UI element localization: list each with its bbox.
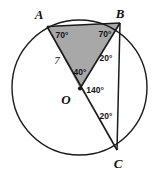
point-label-O: O [61, 92, 71, 107]
point-label-C: C [114, 156, 123, 171]
point-label-B: B [115, 6, 125, 21]
angle-label-at-C: 20° [100, 111, 113, 121]
point-label-A: A [34, 7, 44, 22]
geometry-figure: A B C O 7 70° 70° 20° 40° 140° 20° [0, 0, 158, 173]
angle-label-AOB: 40° [74, 67, 87, 77]
angle-label-at-A: 70° [56, 30, 69, 40]
center-point-dot [78, 86, 82, 90]
angle-label-at-B: 70° [99, 29, 112, 39]
segment-chord-BC [117, 23, 120, 150]
figure-canvas: A B C O 7 70° 70° 20° 40° 140° 20° [0, 0, 158, 173]
angle-label-BOC: 140° [86, 85, 104, 95]
length-label-7: 7 [54, 54, 60, 66]
angle-label-OBC: 20° [100, 53, 113, 63]
